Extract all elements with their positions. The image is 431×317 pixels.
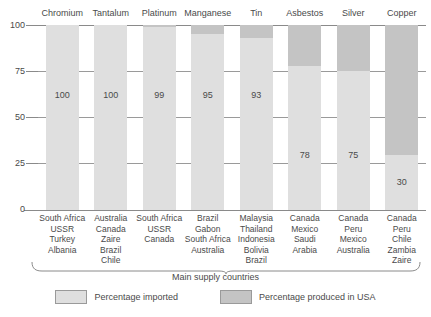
- stacked-bar-chart: 100 75 50 25 0 100100999593787530 Chromi…: [0, 0, 431, 317]
- bar-stack: [240, 25, 273, 210]
- category-header-tantalum: Tantalum: [87, 8, 136, 18]
- bar-value-label: 30: [385, 177, 418, 187]
- bar-segment-produced-usa[interactable]: [288, 25, 321, 66]
- bar-column[interactable]: 100: [94, 25, 127, 210]
- chart-legend: Percentage imported Percentage produced …: [0, 290, 431, 304]
- bar-value-label: 93: [240, 90, 273, 100]
- bar-segment-imported[interactable]: [191, 34, 224, 210]
- bar-segment-imported[interactable]: [337, 71, 370, 210]
- bar-stack: [337, 25, 370, 210]
- category-header-manganese: Manganese: [184, 8, 233, 18]
- category-header-platinum: Platinum: [135, 8, 184, 18]
- plot-area: 100100999593787530: [38, 25, 426, 210]
- category-header-tin: Tin: [232, 8, 281, 18]
- bar-stack: [94, 25, 127, 210]
- bar-segment-produced-usa[interactable]: [337, 25, 370, 71]
- bar-stack: [143, 25, 176, 210]
- bar-segment-imported[interactable]: [240, 38, 273, 210]
- supply-country-item: Brazil: [82, 245, 141, 256]
- supply-countries-copper: CanadaPeruChileZambiaZaire: [373, 213, 431, 266]
- legend-item-produced-usa: Percentage produced in USA: [220, 290, 376, 304]
- bar-segment-imported[interactable]: [94, 25, 127, 210]
- bar-column[interactable]: 100: [46, 25, 79, 210]
- bar-value-label: 95: [191, 90, 224, 100]
- legend-label-produced-usa: Percentage produced in USA: [259, 292, 376, 302]
- x-axis-line: [24, 210, 426, 211]
- bar-column[interactable]: 75: [337, 25, 370, 210]
- bar-segment-produced-usa[interactable]: [191, 25, 224, 34]
- bar-stack: [46, 25, 79, 210]
- supply-country-item: Zambia: [373, 245, 431, 256]
- supply-country-item: Chile: [373, 234, 431, 245]
- bar-segment-imported[interactable]: [46, 25, 79, 210]
- legend-item-imported: Percentage imported: [55, 290, 178, 304]
- bar-stack: [288, 25, 321, 210]
- bar-segment-produced-usa[interactable]: [385, 25, 418, 155]
- supply-country-item: Peru: [373, 224, 431, 235]
- bar-column[interactable]: 99: [143, 25, 176, 210]
- bar-column[interactable]: 78: [288, 25, 321, 210]
- y-axis-tick-mark-25: [26, 163, 38, 164]
- legend-label-imported: Percentage imported: [94, 292, 178, 302]
- y-axis-tick-mark-75: [26, 71, 38, 72]
- bar-value-label: 100: [46, 90, 79, 100]
- category-header-chromium: Chromium: [38, 8, 87, 18]
- bar-segment-produced-usa[interactable]: [240, 25, 273, 38]
- legend-swatch-produced-usa: [220, 290, 252, 304]
- y-axis-tick-mark-50: [26, 117, 38, 118]
- x-axis-label: Main supply countries: [0, 272, 431, 282]
- supply-country-item: Canada: [373, 213, 431, 224]
- bar-segment-imported[interactable]: [143, 27, 176, 210]
- bar-value-label: 99: [143, 90, 176, 100]
- bar-column[interactable]: 30: [385, 25, 418, 210]
- bar-column[interactable]: 93: [240, 25, 273, 210]
- y-axis-tick-mark-100: [26, 25, 38, 26]
- legend-swatch-imported: [55, 290, 87, 304]
- bar-stack: [191, 25, 224, 210]
- cropped-caption-line: [0, 312, 431, 317]
- bar-segment-imported[interactable]: [288, 66, 321, 210]
- bar-value-label: 75: [337, 150, 370, 160]
- bar-value-label: 100: [94, 90, 127, 100]
- category-header-copper: Copper: [378, 8, 427, 18]
- category-header-silver: Silver: [329, 8, 378, 18]
- bar-value-label: 78: [288, 150, 321, 160]
- bar-column[interactable]: 95: [191, 25, 224, 210]
- category-header-asbestos: Asbestos: [281, 8, 330, 18]
